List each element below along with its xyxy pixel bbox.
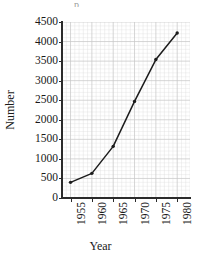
y-tick-mark — [59, 42, 62, 43]
x-tick-label: 1960 — [97, 202, 109, 225]
x-axis-title: Year — [0, 240, 201, 252]
chart-figure: p 050010001500200025003000350040004500 1… — [0, 0, 201, 258]
x-tick-label: 1965 — [118, 202, 130, 225]
x-tick-mark — [113, 199, 114, 202]
x-tick-label: 1970 — [140, 202, 152, 225]
x-tick-mark — [135, 199, 136, 202]
y-tick-mark — [59, 100, 62, 101]
x-tick-mark — [92, 199, 93, 202]
y-axis-title-wrap: Number — [2, 0, 18, 220]
y-tick-mark — [59, 159, 62, 160]
x-axis-tick-labels: 195519601965197019751980 — [0, 0, 201, 258]
x-tick-label: 1975 — [161, 202, 173, 225]
x-tick-mark — [177, 199, 178, 202]
y-tick-mark — [59, 178, 62, 179]
y-tick-mark — [59, 139, 62, 140]
x-tick-mark — [71, 199, 72, 202]
y-tick-mark — [59, 22, 62, 23]
y-tick-mark — [59, 198, 62, 199]
y-tick-mark — [59, 61, 62, 62]
y-tick-mark — [59, 81, 62, 82]
y-tick-mark — [59, 120, 62, 121]
x-tick-label: 1955 — [76, 202, 88, 225]
y-axis-title: Number — [4, 90, 16, 129]
x-tick-mark — [156, 199, 157, 202]
x-tick-label: 1980 — [182, 202, 194, 225]
